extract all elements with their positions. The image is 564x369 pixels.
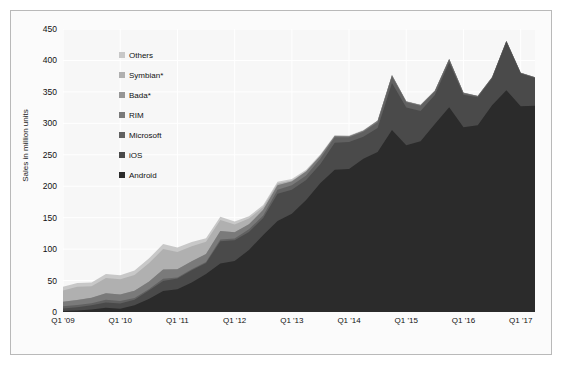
legend-item-label: Symbian*: [129, 71, 163, 80]
y-axis-tick-label: 300: [27, 118, 57, 128]
legend-item-symbian[interactable]: Symbian*: [119, 65, 209, 85]
y-axis-tick-label: 350: [27, 87, 57, 97]
legend-item-others[interactable]: Others: [119, 45, 209, 65]
y-axis-ticks: 050100150200250300350400450: [29, 11, 57, 354]
x-axis-tick-label: Q1 '11: [166, 316, 189, 325]
legend-swatch-icon: [119, 112, 125, 118]
legend-swatch-icon: [119, 52, 125, 58]
y-axis-tick-label: 100: [27, 244, 57, 254]
x-axis-tick-label: Q1 '13: [280, 316, 303, 325]
legend-item-label: RIM: [129, 111, 144, 120]
y-axis-tick-label: 200: [27, 181, 57, 191]
legend-swatch-icon: [119, 152, 125, 158]
x-axis-tick-label: Q1 '16: [452, 316, 475, 325]
legend-item-label: Microsoft: [129, 131, 161, 140]
x-axis-tick-label: Q1 '17: [509, 316, 532, 325]
chart-legend: OthersSymbian*Bada*RIMMicrosoftiOSAndroi…: [119, 45, 209, 185]
x-axis-tick-label: Q1 '14: [337, 316, 360, 325]
legend-item-android[interactable]: Android: [119, 165, 209, 185]
legend-item-bada[interactable]: Bada*: [119, 85, 209, 105]
legend-item-label: Android: [129, 171, 157, 180]
x-axis-tick-label: Q1 '15: [395, 316, 418, 325]
x-axis-tick-label: Q1 '10: [109, 316, 132, 325]
legend-item-ios[interactable]: iOS: [119, 145, 209, 165]
y-axis-tick-label: 450: [27, 24, 57, 34]
legend-swatch-icon: [119, 132, 125, 138]
x-axis-ticks: Q1 '09Q1 '10Q1 '11Q1 '12Q1 '13Q1 '14Q1 '…: [63, 316, 535, 336]
chart-figure: Sales in million units 05010015020025030…: [10, 10, 552, 355]
y-axis-tick-label: 400: [27, 55, 57, 65]
y-axis-tick-label: 50: [27, 276, 57, 286]
chart-plot-wrapper: Sales in million units 05010015020025030…: [11, 11, 551, 354]
x-axis-tick-label: Q1 '09: [51, 316, 74, 325]
legend-swatch-icon: [119, 172, 125, 178]
legend-swatch-icon: [119, 72, 125, 78]
legend-swatch-icon: [119, 92, 125, 98]
x-axis-tick-label: Q1 '12: [223, 316, 246, 325]
legend-item-microsoft[interactable]: Microsoft: [119, 125, 209, 145]
legend-item-label: Bada*: [129, 91, 151, 100]
legend-item-label: iOS: [129, 151, 142, 160]
y-axis-tick-label: 150: [27, 213, 57, 223]
y-axis-tick-label: 250: [27, 150, 57, 160]
legend-item-label: Others: [129, 51, 153, 60]
legend-item-rim[interactable]: RIM: [119, 105, 209, 125]
